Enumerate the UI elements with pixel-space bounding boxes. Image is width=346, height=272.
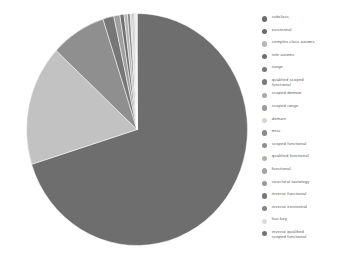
legend-swatch-icon: [262, 219, 267, 224]
legend-item[interactable]: subclass: [262, 14, 346, 24]
legend-item[interactable]: structural tautology: [262, 179, 346, 189]
legend-item-label: qualified functional: [272, 153, 309, 158]
legend-item-label: inverse functional: [272, 191, 307, 196]
legend-item[interactable]: has key: [262, 216, 346, 226]
legend-swatch-icon: [262, 168, 267, 173]
legend-swatch-icon: [262, 143, 267, 148]
legend-item-label: misc: [272, 128, 281, 133]
legend-swatch-icon: [262, 193, 267, 198]
legend-item[interactable]: scoped domain: [262, 90, 346, 100]
legend-swatch-icon: [262, 105, 267, 110]
legend-item-label: role axioms: [272, 52, 295, 57]
legend-item[interactable]: qualified scoped functional: [262, 77, 346, 88]
legend-swatch-icon: [262, 118, 267, 123]
legend-swatch-icon: [262, 231, 267, 236]
pie-chart-svg: [26, 13, 248, 246]
legend-item-label: scoped range: [272, 103, 299, 108]
legend-swatch-icon: [262, 16, 267, 21]
legend-item-label: scoped domain: [272, 90, 302, 95]
legend-item[interactable]: inverse functional: [262, 191, 346, 201]
legend-item[interactable]: complex class axioms: [262, 39, 346, 49]
legend-item-label: range: [272, 64, 283, 69]
legend-item[interactable]: role axioms: [262, 52, 346, 62]
legend-item-label: inverse qualified scoped functional: [272, 229, 306, 240]
legend-swatch-icon: [262, 156, 267, 161]
legend-item-label: domain: [272, 116, 286, 121]
legend-item[interactable]: qualified functional: [262, 153, 346, 163]
pie-chart-screen: subclassexistentialcomplex class axiomsr…: [0, 0, 346, 272]
legend-swatch-icon: [262, 93, 267, 98]
legend-item[interactable]: domain: [262, 116, 346, 126]
legend-item[interactable]: inverse existential: [262, 204, 346, 214]
legend-item-label: subclass: [272, 14, 289, 19]
legend-swatch-icon: [262, 79, 267, 84]
legend-swatch-icon: [262, 67, 267, 72]
legend-item[interactable]: existential: [262, 27, 346, 37]
legend-swatch-icon: [262, 54, 267, 59]
legend-item-label: functional: [272, 166, 291, 171]
chart-legend: subclassexistentialcomplex class axiomsr…: [262, 14, 346, 264]
legend-swatch-icon: [262, 206, 267, 211]
legend-item-label: existential: [272, 27, 292, 32]
pie-chart: [26, 13, 248, 246]
legend-item-label: structural tautology: [272, 179, 310, 184]
legend-swatch-icon: [262, 181, 267, 186]
legend-item[interactable]: functional: [262, 166, 346, 176]
legend-item-label: inverse existential: [272, 204, 307, 209]
legend-swatch-icon: [262, 130, 267, 135]
pie-slice-group: [26, 13, 247, 245]
legend-swatch-icon: [262, 29, 267, 34]
legend-item[interactable]: range: [262, 64, 346, 74]
legend-item[interactable]: inverse qualified scoped functional: [262, 229, 346, 240]
legend-swatch-icon: [262, 41, 267, 46]
legend-item-label: has key: [272, 216, 287, 221]
legend-item-label: complex class axioms: [272, 39, 315, 44]
legend-item-label: qualified scoped functional: [272, 77, 304, 88]
legend-item-label: scoped functional: [272, 141, 306, 146]
legend-item[interactable]: misc: [262, 128, 346, 138]
legend-item[interactable]: scoped range: [262, 103, 346, 113]
legend-item[interactable]: scoped functional: [262, 141, 346, 151]
